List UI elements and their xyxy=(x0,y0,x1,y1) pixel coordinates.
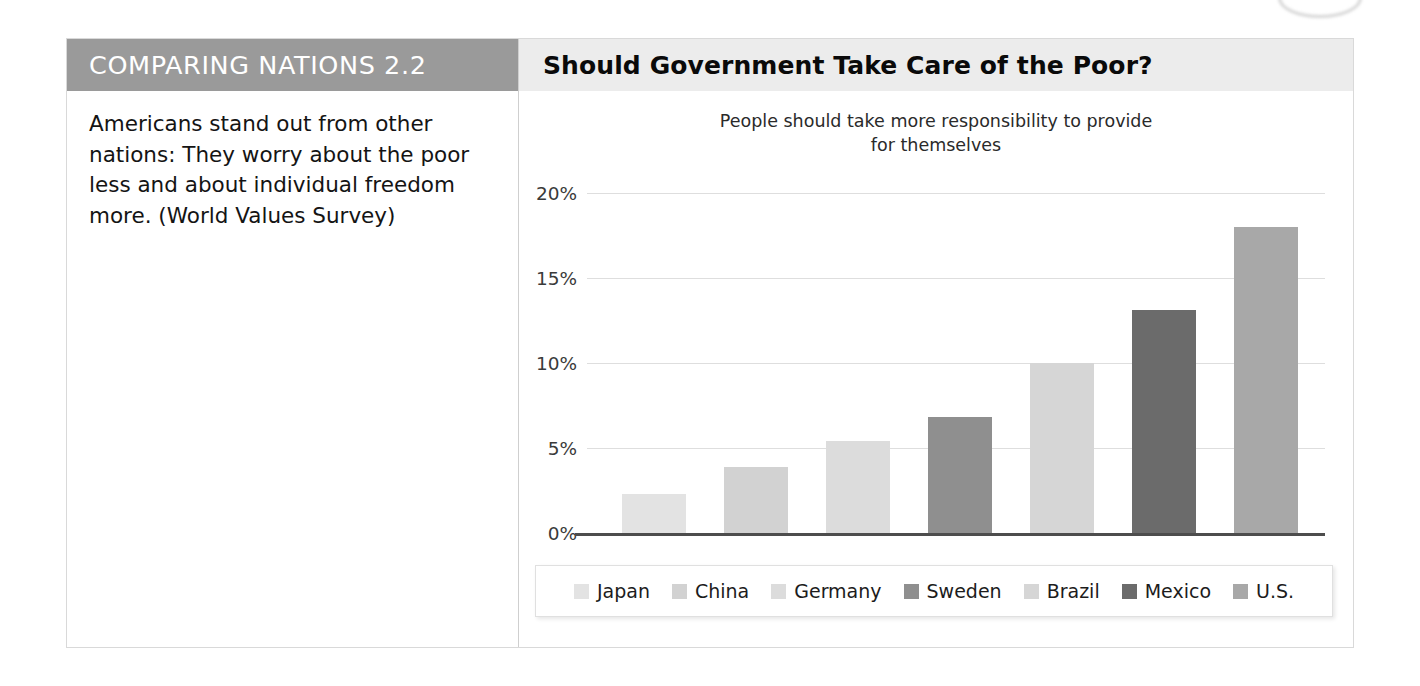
chart-area: People should take more responsibility t… xyxy=(519,91,1353,647)
y-axis-tick-label: 0% xyxy=(548,523,577,544)
legend-label: China xyxy=(695,580,749,602)
x-axis-line xyxy=(575,533,1325,536)
scan-artifact-arc xyxy=(1278,0,1362,18)
comparing-nations-figure: COMPARING NATIONS 2.2 Americans stand ou… xyxy=(66,38,1354,648)
bar-slot-mexico xyxy=(1113,193,1215,533)
bar-mexico xyxy=(1132,310,1195,533)
legend-swatch-icon xyxy=(1024,584,1039,599)
figure-chart-panel: Should Government Take Care of the Poor?… xyxy=(519,39,1353,647)
legend-item-mexico[interactable]: Mexico xyxy=(1122,580,1211,602)
y-axis-tick-label: 15% xyxy=(536,268,577,289)
bar-slot-germany xyxy=(807,193,909,533)
legend-label: Sweden xyxy=(927,580,1002,602)
bar-sweden xyxy=(928,417,991,533)
y-axis-tick-label: 20% xyxy=(536,183,577,204)
legend-swatch-icon xyxy=(771,584,786,599)
legend-swatch-icon xyxy=(904,584,919,599)
legend-label: Japan xyxy=(597,580,650,602)
legend-label: Germany xyxy=(794,580,881,602)
bar-slot-us xyxy=(1215,193,1317,533)
figure-label-header: COMPARING NATIONS 2.2 xyxy=(67,39,518,91)
y-axis-tick-label: 10% xyxy=(536,353,577,374)
y-axis-tick-label: 5% xyxy=(548,438,577,459)
figure-caption-text: Americans stand out from other nations: … xyxy=(67,91,518,231)
bar-brazil xyxy=(1030,363,1093,533)
legend-item-china[interactable]: China xyxy=(672,580,749,602)
figure-caption-panel: COMPARING NATIONS 2.2 Americans stand ou… xyxy=(67,39,519,647)
legend-label: Brazil xyxy=(1047,580,1100,602)
chart-subtitle-line-1: People should take more responsibility t… xyxy=(579,109,1293,133)
chart-subtitle: People should take more responsibility t… xyxy=(519,109,1353,157)
chart-subtitle-line-2: for themselves xyxy=(579,133,1293,157)
legend-swatch-icon xyxy=(1122,584,1137,599)
bar-china xyxy=(724,467,787,533)
legend-label: U.S. xyxy=(1256,580,1294,602)
bar-series xyxy=(603,193,1317,533)
bar-us xyxy=(1234,227,1297,533)
chart-title-band: Should Government Take Care of the Poor? xyxy=(519,39,1353,91)
bar-germany xyxy=(826,441,889,533)
plot-inner: 0%5%10%15%20% xyxy=(587,193,1325,533)
legend-swatch-icon xyxy=(672,584,687,599)
legend-item-us[interactable]: U.S. xyxy=(1233,580,1294,602)
bar-chart-plot: 0%5%10%15%20% xyxy=(587,193,1325,533)
legend-swatch-icon xyxy=(574,584,589,599)
legend-item-germany[interactable]: Germany xyxy=(771,580,881,602)
legend-item-sweden[interactable]: Sweden xyxy=(904,580,1002,602)
bar-slot-china xyxy=(705,193,807,533)
legend-item-brazil[interactable]: Brazil xyxy=(1024,580,1100,602)
legend-swatch-icon xyxy=(1233,584,1248,599)
bar-slot-brazil xyxy=(1011,193,1113,533)
legend-item-japan[interactable]: Japan xyxy=(574,580,650,602)
bar-slot-sweden xyxy=(909,193,1011,533)
bar-slot-japan xyxy=(603,193,705,533)
page-title: Should Government Take Care of the Poor? xyxy=(543,51,1153,80)
chart-legend: JapanChinaGermanySwedenBrazilMexicoU.S. xyxy=(535,565,1333,617)
bar-japan xyxy=(622,494,685,533)
legend-label: Mexico xyxy=(1145,580,1211,602)
